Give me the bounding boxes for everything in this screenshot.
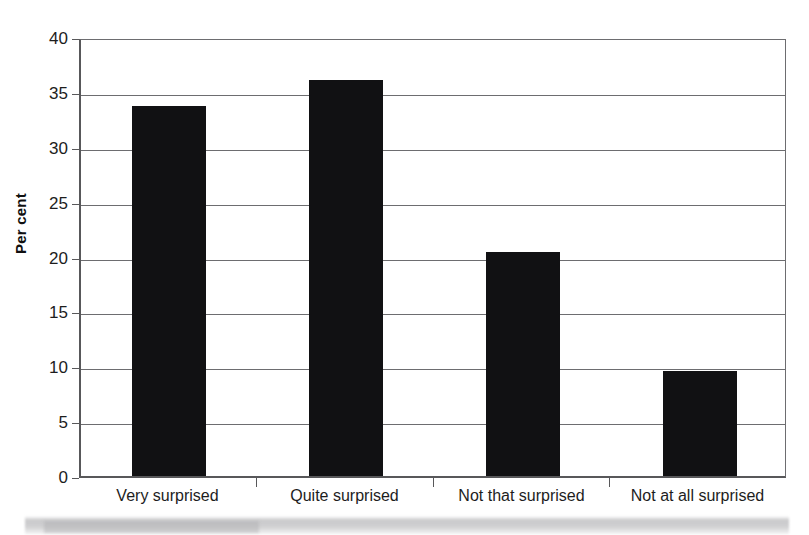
y-axis: 0510152025303540 (0, 0, 68, 535)
y-tick-mark (72, 39, 79, 40)
plot-area (79, 39, 786, 478)
y-tick-mark (72, 259, 79, 260)
y-tick-label: 0 (36, 469, 68, 486)
gridline (81, 95, 785, 96)
scan-smudge-secondary (44, 521, 259, 533)
bar (486, 252, 560, 476)
y-tick-mark (72, 423, 79, 424)
y-tick-label: 40 (36, 30, 68, 47)
bar (132, 106, 206, 476)
y-tick-label: 5 (36, 414, 68, 431)
y-tick-mark (72, 313, 79, 314)
y-tick-label: 10 (36, 359, 68, 376)
y-tick-label: 20 (36, 250, 68, 267)
category-label: Not that surprised (433, 486, 610, 505)
category-label: Quite surprised (256, 486, 433, 505)
y-tick-label: 30 (36, 140, 68, 157)
y-tick-mark (72, 204, 79, 205)
y-tick-mark (72, 368, 79, 369)
scan-smudge (25, 516, 789, 535)
y-tick-mark (72, 94, 79, 95)
category-label: Very surprised (79, 486, 256, 505)
y-axis-title: Per cent (12, 176, 29, 272)
y-tick-mark (72, 149, 79, 150)
y-tick-label: 25 (36, 195, 68, 212)
bar-chart: 0510152025303540 Per cent Very surprised… (0, 0, 809, 535)
y-tick-label: 35 (36, 85, 68, 102)
bar (663, 371, 737, 476)
y-tick-mark (72, 478, 79, 479)
y-tick-label: 15 (36, 304, 68, 321)
category-label: Not at all surprised (609, 486, 786, 505)
bar (309, 80, 383, 476)
